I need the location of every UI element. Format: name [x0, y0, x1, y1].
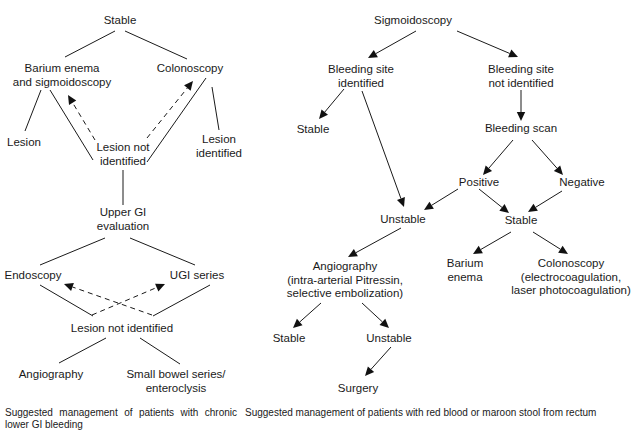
node-label-line: enteroclysis: [146, 382, 207, 394]
node-label-line: (intra-arterial Pitressin,: [287, 274, 403, 286]
edge-l-lni2-to-l-angio: [59, 338, 106, 363]
edge-r-neg-to-r-stable2: [528, 191, 562, 212]
edge-r-pos-to-r-stable2: [479, 189, 509, 213]
node-label-line: identified: [100, 155, 146, 167]
edge-l-lni2-to-l-endo: [64, 283, 152, 315]
node-label-line: Stable: [104, 14, 137, 26]
dashed-arrowhead-icon: [68, 95, 76, 105]
edge-r-angio-to-r-unstable2: [362, 303, 389, 328]
edge-r-unstable2-to-r-surgery: [365, 347, 391, 376]
node-label-line: evaluation: [97, 220, 149, 232]
node-label-line: Positive: [459, 176, 499, 188]
flow-node-lesion-not-identified: Lesion not identified: [71, 322, 173, 334]
node-label-line: not identified: [488, 77, 553, 89]
connector-line: [536, 191, 562, 207]
node-label-line: Angiography: [313, 260, 378, 272]
node-label-line: Lesion not: [96, 141, 150, 153]
node-label-line: Surgery: [338, 382, 379, 394]
flow-node-unstable: Unstable: [366, 332, 411, 344]
edge-l-barium-to-l-lesion: [25, 90, 41, 131]
node-label-line: Bleeding scan: [485, 122, 557, 134]
connector-line: [325, 89, 344, 112]
node-label-line: Upper GI: [100, 206, 147, 218]
flow-node-stable: Stable: [297, 123, 330, 135]
node-label-line: UGI series: [170, 269, 225, 281]
node-label-line: Stable: [505, 214, 538, 226]
edge-r-sig-to-r-bsni: [457, 31, 518, 57]
flow-node-bleeding-scan: Bleeding scan: [485, 122, 557, 134]
node-label-line: Bleeding site: [488, 63, 554, 75]
arrowhead-icon: [368, 50, 378, 58]
arrowhead-icon: [517, 112, 525, 121]
connector-line: [362, 91, 401, 199]
node-label-line: Barium: [447, 257, 483, 269]
edge-l-ugi-to-l-ugiser: [130, 238, 195, 265]
edge-l-stable-to-l-colon: [125, 31, 187, 59]
flow-node-barium-enema-and-sigmoidoscopy: Barium enemaand sigmoidoscopy: [13, 62, 112, 88]
flow-node-barium-enema: Bariumenema: [447, 257, 483, 283]
node-label-line: Colonoscopy: [157, 62, 224, 74]
caption-red-blood-maroon-stool: Suggested management of patients with re…: [245, 407, 633, 419]
connector-line: [130, 238, 195, 265]
edge-r-bsi-to-r-unstable1: [362, 91, 405, 207]
flow-node-lesion: Lesion: [7, 136, 41, 148]
connector-line: [153, 285, 210, 316]
flow-node-angiography-intra-arterial-pitressin-selective-embolization: Angiography(intra-arterial Pitressin,sel…: [287, 260, 404, 299]
connector-line: [376, 31, 416, 54]
flow-node-colonoscopy: Colonoscopy: [157, 62, 224, 74]
connector-line: [432, 189, 458, 205]
node-label-line: Stable: [297, 123, 330, 135]
node-label-line: Unstable: [366, 332, 411, 344]
dashed-connector-line: [92, 288, 157, 315]
node-label-line: laser photocoagulation): [511, 284, 631, 296]
arrowhead-icon: [558, 246, 568, 254]
node-label-line: Angiography: [19, 368, 84, 380]
flow-node-lesion-not-identified: Lesion notidentified: [96, 141, 150, 167]
arrowhead-icon: [483, 165, 492, 175]
edge-r-stable2-to-r-barium: [473, 232, 511, 254]
edge-l-colon-to-l-lid: [212, 87, 219, 130]
dashed-arrowhead-icon: [184, 81, 193, 91]
flow-node-colonoscopy-electrocoagulation-laser-photocoagulation: Colonoscopy(electrocoagulation,laser pho…: [511, 257, 631, 296]
connector-line: [25, 90, 41, 131]
edge-r-scan-to-r-pos: [483, 140, 513, 175]
edge-l-ugi-to-l-endo: [40, 238, 105, 265]
connector-line: [59, 338, 106, 363]
node-label-line: Unstable: [380, 213, 425, 225]
edge-l-ugiser-to-l-lni2: [153, 285, 210, 316]
edge-l-lni2-to-l-ugiser: [92, 284, 165, 315]
edge-r-bsni-to-r-scan: [517, 90, 525, 121]
node-label-line: Barium enema: [25, 62, 100, 74]
edge-l-lni2-to-l-sbs: [140, 338, 180, 364]
connector-line: [533, 232, 560, 249]
connector-line: [479, 189, 502, 207]
node-label-line: selective embolization): [287, 287, 404, 299]
edge-r-scan-to-r-neg: [532, 140, 563, 175]
node-label-line: identified: [196, 147, 242, 159]
connector-line: [125, 31, 187, 59]
flow-node-surgery: Surgery: [338, 382, 379, 394]
node-label-line: Negative: [559, 176, 604, 188]
edge-l-lni1-to-l-barium: [68, 95, 95, 140]
connector-line: [40, 285, 93, 316]
flow-node-small-bowel-series-enteroclysis: Small bowel series/enteroclysis: [126, 368, 226, 394]
dashed-arrowhead-icon: [64, 283, 74, 291]
arrowhead-icon: [473, 246, 483, 254]
arrowhead-icon: [424, 202, 434, 210]
flow-node-positive: Positive: [459, 176, 499, 188]
flow-node-lesion-identified: Lesionidentified: [196, 133, 242, 159]
edge-r-sig-to-r-bsi: [368, 31, 416, 58]
flow-node-stable: Stable: [104, 14, 137, 26]
connector-line: [489, 140, 513, 168]
connector-line: [481, 232, 511, 249]
arrowhead-icon: [499, 204, 509, 213]
edge-r-bsi-to-r-stable1: [319, 89, 344, 119]
edge-l-endo-to-l-lni2: [40, 285, 93, 316]
edge-r-angio-to-r-stable3: [293, 303, 321, 328]
connector-line: [371, 347, 391, 369]
dashed-connector-line: [73, 103, 95, 140]
flow-node-ugi-series: UGI series: [170, 269, 225, 281]
edge-r-pos-to-r-unstable1: [424, 189, 458, 210]
arrowhead-icon: [319, 109, 328, 119]
flow-node-stable: Stable: [505, 214, 538, 226]
